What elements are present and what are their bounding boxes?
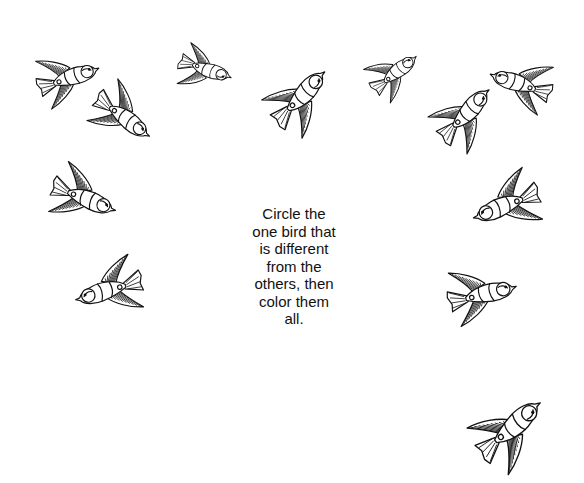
worksheet-page: Circle the one bird that is different fr… xyxy=(0,0,584,483)
instruction-line: others, then xyxy=(238,275,350,293)
bird-drawing-icon xyxy=(254,52,350,148)
bird-11[interactable] xyxy=(436,248,526,337)
instruction-line: Circle the xyxy=(238,205,350,223)
instruction-line: is different xyxy=(238,240,350,258)
instruction-line: all. xyxy=(238,310,350,328)
bird-10[interactable] xyxy=(459,160,553,243)
bird-8[interactable] xyxy=(37,154,130,235)
bird-3[interactable] xyxy=(164,27,243,114)
bird-5[interactable] xyxy=(346,24,439,120)
bird-9[interactable] xyxy=(64,244,154,331)
bird-drawing-icon xyxy=(37,154,130,235)
bird-4[interactable] xyxy=(254,52,350,148)
bird-drawing-icon xyxy=(459,160,553,243)
bird-12[interactable] xyxy=(457,378,566,483)
instruction-line: color them xyxy=(238,293,350,311)
bird-drawing-icon xyxy=(164,27,243,114)
instruction-text: Circle the one bird that is different fr… xyxy=(238,205,350,328)
instruction-line: from the xyxy=(238,258,350,276)
bird-drawing-icon xyxy=(346,24,439,120)
bird-drawing-icon xyxy=(64,244,154,331)
bird-drawing-icon xyxy=(457,378,566,483)
instruction-line: one bird that xyxy=(238,223,350,241)
bird-drawing-icon xyxy=(436,248,526,337)
